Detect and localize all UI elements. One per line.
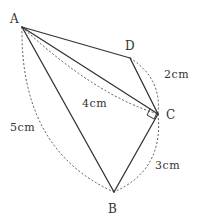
- vertex-label-c: C: [166, 108, 175, 122]
- length-label-ac: 4cm: [82, 97, 107, 110]
- geometry-diagram: A D C B 2cm 4cm 5cm 3cm: [0, 0, 197, 221]
- segment-cb: [114, 114, 158, 192]
- vertex-label-d: D: [125, 39, 135, 53]
- vertex-label-a: A: [9, 12, 19, 26]
- length-label-dc: 2cm: [164, 68, 189, 81]
- vertex-label-b: B: [108, 202, 117, 216]
- length-label-ab: 5cm: [10, 121, 35, 134]
- segment-ad: [22, 27, 130, 58]
- length-label-cb: 3cm: [155, 159, 180, 172]
